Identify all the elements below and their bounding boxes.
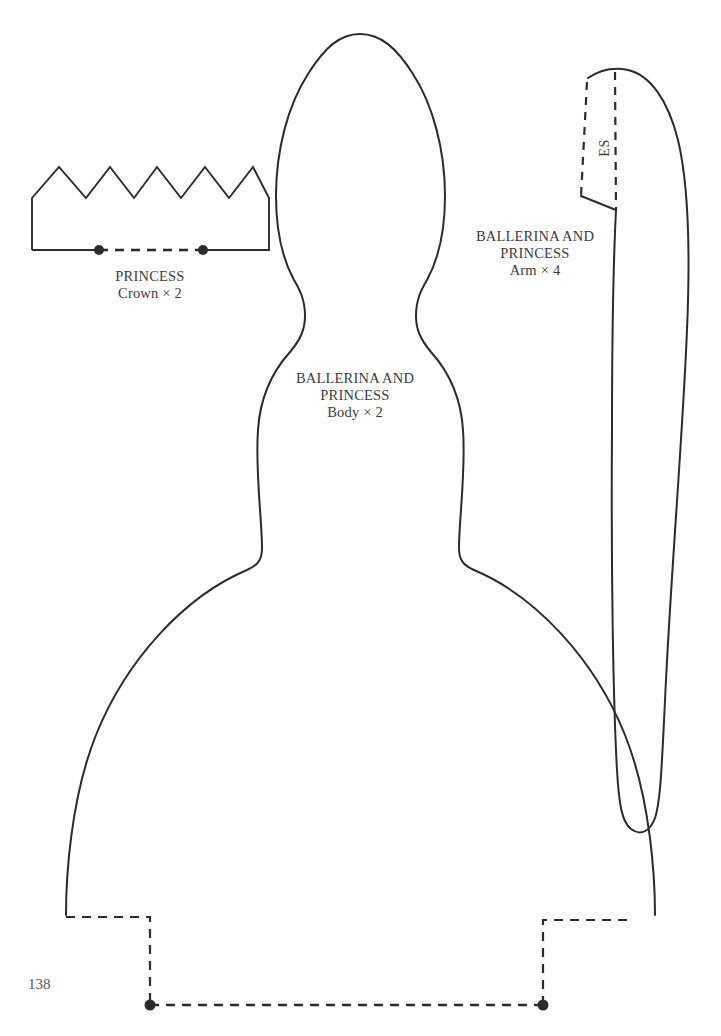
crown-label-line1: PRINCESS	[60, 268, 240, 285]
body-label-line2: PRINCESS	[265, 387, 445, 404]
body-label-line3: Body × 2	[265, 404, 445, 421]
arm-seam-label: ES	[582, 128, 628, 168]
arm-label-line1: BALLERINA AND	[450, 228, 620, 245]
arm-outline	[588, 69, 688, 833]
body-label-line1: BALLERINA AND	[265, 370, 445, 387]
pattern-page: PRINCESS Crown × 2 BALLERINA AND PRINCES…	[0, 0, 721, 1036]
body-outline	[66, 34, 655, 915]
body-hem-dashed-right-step	[543, 920, 627, 1005]
body-hem-dot-left	[145, 1000, 156, 1011]
body-hem-dot-right	[538, 1000, 549, 1011]
crown-label: PRINCESS Crown × 2	[60, 268, 240, 302]
crown-piece	[32, 167, 269, 255]
crown-fold-dot-right	[198, 245, 208, 255]
body-label: BALLERINA AND PRINCESS Body × 2	[265, 370, 445, 421]
arm-seam-corner	[581, 196, 616, 210]
page-number: 138	[28, 976, 51, 993]
arm-piece	[581, 69, 688, 833]
crown-outline	[32, 167, 269, 250]
crown-fold-dot-left	[94, 245, 104, 255]
body-piece	[66, 34, 655, 1011]
crown-label-line2: Crown × 2	[60, 285, 240, 302]
arm-label-line2: PRINCESS	[450, 245, 620, 262]
arm-label-line3: Arm × 4	[450, 262, 620, 279]
arm-label: BALLERINA AND PRINCESS Arm × 4	[450, 228, 620, 279]
body-hem-dashed-left-step	[66, 917, 150, 1005]
